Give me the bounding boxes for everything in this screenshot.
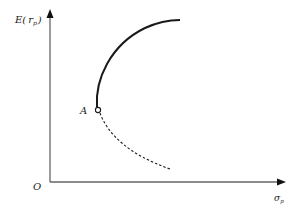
origin-label: O bbox=[33, 181, 41, 192]
frontier-diagram: A O E(rp) σp bbox=[0, 0, 294, 219]
x-axis-label: σp bbox=[274, 193, 284, 205]
y-axis-arrow-icon bbox=[47, 9, 54, 18]
point-a-label: A bbox=[79, 105, 87, 116]
inefficient-frontier-curve bbox=[100, 113, 170, 169]
point-a-marker bbox=[95, 107, 100, 112]
efficient-frontier-curve bbox=[97, 20, 180, 107]
y-axis-label: E(rp) bbox=[14, 14, 42, 27]
x-axis-arrow-icon bbox=[277, 179, 286, 186]
